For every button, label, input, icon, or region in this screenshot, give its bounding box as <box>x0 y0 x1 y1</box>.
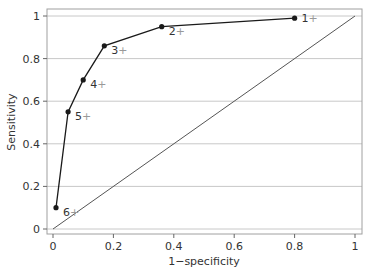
data-points-layer: 6+5+4+3+2+1+ <box>53 12 317 219</box>
y-tick-label: 0 <box>33 223 40 236</box>
point-label: 6+ <box>63 206 79 219</box>
x-axis-label: 1−specificity <box>168 255 240 268</box>
y-axis-label: Sensitivity <box>5 93 18 151</box>
point-label: 5+ <box>75 110 91 123</box>
y-tick-label: 0.2 <box>23 180 41 193</box>
y-tick-label: 0.8 <box>23 53 41 66</box>
y-tick-label: 1 <box>33 10 40 23</box>
y-tick-label: 0.4 <box>23 138 41 151</box>
data-point <box>81 77 86 82</box>
x-tick-label: 0 <box>50 240 57 253</box>
data-point <box>159 24 164 29</box>
roc-curve-layer <box>56 18 295 208</box>
x-tick-label: 0.8 <box>286 240 304 253</box>
roc-chart: 00.20.40.60.8100.20.40.60.81 6+5+4+3+2+1… <box>0 0 373 274</box>
point-label: 2+ <box>169 25 185 38</box>
data-point <box>66 109 71 114</box>
y-tick-label: 0.6 <box>23 95 41 108</box>
point-label: 1+ <box>302 12 318 25</box>
data-point <box>53 205 58 210</box>
x-tick-label: 1 <box>352 240 359 253</box>
x-tick-label: 0.4 <box>165 240 183 253</box>
data-point <box>102 43 107 48</box>
reference-line <box>53 16 355 229</box>
roc-curve-line <box>56 18 295 208</box>
x-tick-label: 0.2 <box>105 240 123 253</box>
point-label: 3+ <box>111 44 127 57</box>
reference-line-layer <box>53 16 355 229</box>
data-point <box>292 16 297 21</box>
point-label: 4+ <box>90 78 106 91</box>
x-tick-label: 0.6 <box>225 240 243 253</box>
